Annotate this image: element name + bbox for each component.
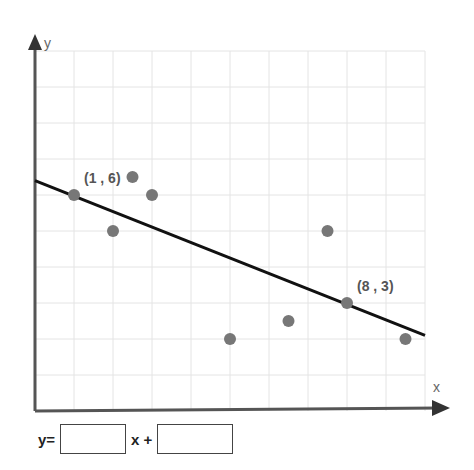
equation-prefix: y= xyxy=(38,431,55,448)
data-point xyxy=(107,225,119,237)
scatter-plot: y x (1 , 6)(8 , 3) xyxy=(0,0,474,470)
data-point xyxy=(68,189,80,201)
data-points xyxy=(68,171,412,345)
axes: y x xyxy=(28,34,450,416)
y-axis-arrow-icon xyxy=(28,34,42,50)
slope-input[interactable] xyxy=(60,424,126,454)
data-point xyxy=(127,171,139,183)
data-point xyxy=(224,333,236,345)
data-point xyxy=(146,189,158,201)
data-point xyxy=(283,315,295,327)
data-point xyxy=(341,297,353,309)
equation-middle: x + xyxy=(131,431,152,448)
x-axis-arrow-icon xyxy=(432,400,450,416)
point-annotation: (1 , 6) xyxy=(84,170,121,186)
data-point xyxy=(400,333,412,345)
y-axis-label: y xyxy=(44,35,51,51)
point-annotation: (8 , 3) xyxy=(357,278,394,294)
x-axis-label: x xyxy=(433,379,440,395)
grid-lines xyxy=(35,51,425,411)
equation-row: y= x + xyxy=(38,424,238,454)
data-point xyxy=(322,225,334,237)
intercept-input[interactable] xyxy=(157,424,233,454)
